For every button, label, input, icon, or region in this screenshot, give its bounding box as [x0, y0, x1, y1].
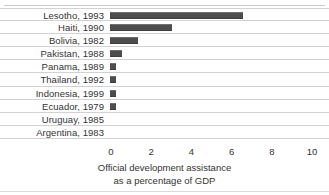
- bar: [110, 103, 116, 110]
- row-label: Pakistan, 1988: [0, 47, 104, 60]
- chart-row: Argentina, 1983: [0, 126, 329, 139]
- chart-row: Indonesia, 1999: [0, 87, 329, 100]
- x-tick-label: 8: [269, 146, 274, 157]
- chart-row: Ecuador, 1979: [0, 100, 329, 113]
- bar-track: [110, 21, 329, 34]
- bar: [110, 12, 243, 19]
- bar-track: [110, 73, 329, 86]
- chart-row: Pakistan, 1988: [0, 47, 329, 60]
- bar: [110, 90, 116, 97]
- bar-track: [110, 34, 329, 47]
- row-label: Argentina, 1983: [0, 126, 104, 139]
- x-tick-label: 2: [149, 146, 154, 157]
- x-tick-label: 4: [189, 146, 194, 157]
- chart-row: Lesotho, 1993: [0, 8, 329, 21]
- bar-track: [110, 60, 329, 73]
- chart-row: Haiti, 1990: [0, 21, 329, 34]
- bar: [110, 76, 116, 83]
- bottom-divider: [0, 191, 329, 192]
- bar: [110, 63, 116, 70]
- bar: [110, 50, 122, 57]
- x-axis-caption: Official development assistance as a per…: [0, 162, 329, 187]
- x-tick-label: 10: [307, 146, 318, 157]
- x-axis-caption-line-1: Official development assistance: [0, 162, 329, 175]
- bar-track: [110, 113, 329, 126]
- top-divider: [4, 5, 325, 6]
- bar: [110, 37, 138, 44]
- chart-row: Thailand, 1992: [0, 73, 329, 86]
- chart-row: Uruguay, 1985: [0, 113, 329, 126]
- row-label: Indonesia, 1999: [0, 87, 104, 100]
- row-label: Haiti, 1990: [0, 21, 104, 34]
- row-label: Uruguay, 1985: [0, 113, 104, 126]
- x-tick-label: 0: [108, 146, 113, 157]
- x-axis: 0246810: [0, 146, 329, 162]
- bar-track: [110, 126, 329, 139]
- chart-row: Bolivia, 1982: [0, 34, 329, 47]
- x-tick-label: 6: [229, 146, 234, 157]
- bar-track: [110, 100, 329, 113]
- chart-row: Panama, 1989: [0, 60, 329, 73]
- row-label: Panama, 1989: [0, 60, 104, 73]
- chart-rows: Lesotho, 1993Haiti, 1990Bolivia, 1982Pak…: [0, 8, 329, 139]
- bar-track: [110, 87, 329, 100]
- row-label: Bolivia, 1982: [0, 34, 104, 47]
- row-label: Ecuador, 1979: [0, 100, 104, 113]
- x-axis-caption-line-2: as a percentage of GDP: [0, 175, 329, 188]
- bar: [110, 24, 172, 31]
- horizontal-bar-chart: Lesotho, 1993Haiti, 1990Bolivia, 1982Pak…: [0, 0, 329, 195]
- bar-track: [110, 47, 329, 60]
- row-label: Thailand, 1992: [0, 73, 104, 86]
